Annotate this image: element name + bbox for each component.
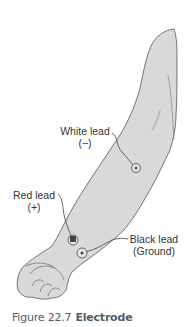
figure-number: Figure 22.7 xyxy=(12,311,71,324)
red-lead-name: Red lead xyxy=(13,189,55,201)
arm-shape xyxy=(17,29,177,299)
black-lead-name: Black lead xyxy=(130,233,178,245)
black-electrode-center xyxy=(81,252,84,255)
figure-caption: Figure 22.7Electrode xyxy=(12,311,132,324)
figure-title: Electrode xyxy=(75,311,132,324)
white-lead-label: White lead (−) xyxy=(58,125,112,149)
black-lead-label: Black lead (Ground) xyxy=(127,233,181,257)
white-lead-polarity: (−) xyxy=(58,137,112,149)
white-electrode-center xyxy=(135,167,138,170)
white-lead-name: White lead xyxy=(60,125,110,137)
red-lead-polarity: (+) xyxy=(10,201,58,213)
black-lead-polarity: (Ground) xyxy=(127,245,181,257)
red-lead-label: Red lead (+) xyxy=(10,189,58,213)
arm-illustration xyxy=(0,0,195,327)
red-electrode-clip xyxy=(70,236,76,242)
electrode-figure: White lead (−) Red lead (+) Black lead (… xyxy=(0,0,195,327)
